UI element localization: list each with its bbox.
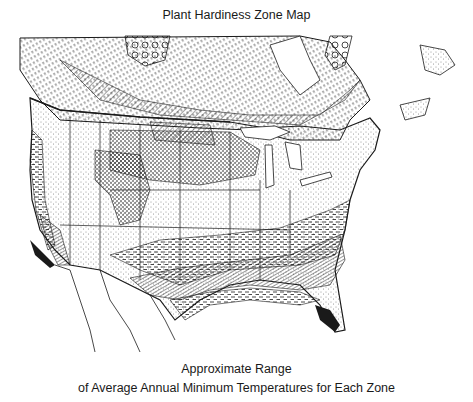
caption-line-2: of Average Annual Minimum Temperatures f…: [0, 379, 473, 398]
newfoundland: [420, 45, 455, 75]
map-caption: Approximate Range of Average Annual Mini…: [0, 360, 473, 398]
hardiness-zone-map: [0, 30, 473, 352]
map-title: Plant Hardiness Zone Map: [0, 8, 473, 22]
nova-scotia: [400, 98, 430, 120]
caption-line-1: Approximate Range: [0, 360, 473, 379]
lake-michigan: [265, 145, 274, 188]
